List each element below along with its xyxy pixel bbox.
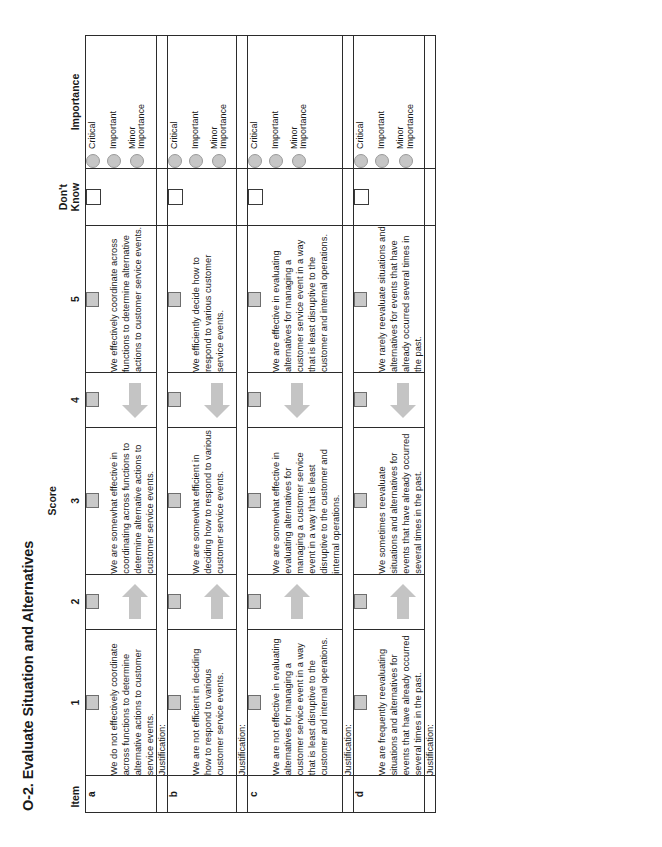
assessment-rows: aWe do not effectively coordinate across…	[85, 36, 436, 813]
importance-option-a-2[interactable]: MinorImportance	[128, 36, 147, 168]
score-checkbox-d-2[interactable]	[354, 594, 367, 609]
cell-score4-c[interactable]	[247, 373, 342, 428]
justification-imp-spacer	[156, 36, 167, 169]
cell-score2-c[interactable]	[247, 574, 342, 629]
radio-dot-icon[interactable]	[248, 154, 262, 168]
cell-importance-d[interactable]: CriticalImportantMinorImportance	[354, 36, 425, 169]
importance-option-label: Important	[377, 111, 386, 149]
radio-dot-icon[interactable]	[189, 154, 203, 168]
cell-score1-a[interactable]: We do not effectively coordinate across …	[85, 629, 156, 776]
cell-score1-c[interactable]: We are not effective in evaluating alter…	[247, 629, 342, 776]
radio-dot-icon[interactable]	[269, 154, 283, 168]
score-checkbox-c-4[interactable]	[248, 393, 261, 408]
score-checkbox-c-1[interactable]	[248, 695, 261, 710]
cell-importance-c[interactable]: CriticalImportantMinorImportance	[247, 36, 342, 169]
justification-field-c[interactable]: Justification:	[343, 226, 354, 776]
justification-item-spacer	[425, 776, 436, 813]
cell-score1-b[interactable]: We are not efficient in deciding how to …	[167, 629, 236, 776]
score-checkbox-b-5[interactable]	[168, 292, 181, 307]
header-score-5: 5	[58, 226, 85, 373]
radio-dot-icon[interactable]	[107, 154, 121, 168]
score-checkbox-c-2[interactable]	[248, 594, 261, 609]
score-checkbox-b-1[interactable]	[168, 695, 181, 710]
cell-score5-c[interactable]: We are effective in evaluating alternati…	[247, 226, 342, 373]
radio-dot-icon[interactable]	[86, 154, 100, 168]
cell-score3-c[interactable]: We are somewhat effective in evaluating …	[247, 428, 342, 575]
radio-dot-icon[interactable]	[168, 154, 182, 168]
importance-option-a-1[interactable]: Important	[107, 36, 121, 168]
score-checkbox-c-5[interactable]	[248, 292, 261, 307]
score-checkbox-a-3[interactable]	[86, 493, 99, 508]
justification-field-b[interactable]: Justification:	[236, 226, 247, 776]
assessment-table: Score Item 1 2 3 4 5 Don't Know Importan…	[46, 35, 436, 813]
score-checkbox-d-3[interactable]	[354, 493, 367, 508]
importance-option-d-0[interactable]: Critical	[354, 36, 368, 168]
justification-field-d[interactable]: Justification:	[425, 226, 436, 776]
score-checkbox-d-5[interactable]	[354, 292, 367, 307]
justification-row: Justification:	[425, 36, 436, 813]
score-checkbox-c-3[interactable]	[248, 493, 261, 508]
trend-arrow-left-b	[188, 373, 230, 427]
justification-field-a[interactable]: Justification:	[156, 226, 167, 776]
cell-score5-d[interactable]: We rarely reevaluate situations and alte…	[354, 226, 425, 373]
justification-label: Justification:	[157, 724, 167, 775]
importance-option-b-1[interactable]: Important	[189, 36, 203, 168]
importance-option-label: Critical	[170, 121, 179, 149]
importance-option-c-2[interactable]: MinorImportance	[290, 36, 309, 168]
dont-know-checkbox-a[interactable]	[86, 189, 101, 205]
table-row: bWe are not efficient in deciding how to…	[167, 36, 236, 813]
radio-dot-icon[interactable]	[354, 154, 368, 168]
cell-dont-know-c[interactable]	[247, 168, 342, 225]
cell-dont-know-b[interactable]	[167, 168, 236, 225]
radio-dot-icon[interactable]	[130, 154, 144, 168]
cell-importance-a[interactable]: CriticalImportantMinorImportance	[85, 36, 156, 169]
score-checkbox-a-5[interactable]	[86, 292, 99, 307]
radio-dot-icon[interactable]	[399, 154, 413, 168]
cell-score4-a[interactable]	[85, 373, 156, 428]
cell-dont-know-a[interactable]	[85, 168, 156, 225]
cell-dont-know-d[interactable]	[354, 168, 425, 225]
justification-label: Justification:	[237, 724, 247, 775]
statement-score1-a: We do not effectively coordinate across …	[108, 630, 156, 776]
importance-option-d-1[interactable]: Important	[375, 36, 389, 168]
score-checkbox-a-1[interactable]	[86, 695, 99, 710]
importance-option-c-0[interactable]: Critical	[248, 36, 262, 168]
cell-score4-d[interactable]	[354, 373, 425, 428]
dont-know-checkbox-d[interactable]	[354, 189, 369, 205]
score-checkbox-a-2[interactable]	[86, 594, 99, 609]
trend-arrow-right-d	[374, 575, 416, 629]
radio-dot-icon[interactable]	[212, 154, 226, 168]
importance-option-label: Important	[191, 111, 200, 149]
score-checkbox-b-3[interactable]	[168, 493, 181, 508]
dont-know-checkbox-b[interactable]	[168, 189, 183, 205]
cell-score1-d[interactable]: We are frequently reevaluating situation…	[354, 629, 425, 776]
importance-option-b-2[interactable]: MinorImportance	[210, 36, 229, 168]
table-row: dWe are frequently reevaluating situatio…	[354, 36, 425, 813]
table-row: cWe are not effective in evaluating alte…	[247, 36, 342, 813]
cell-score3-a[interactable]: We are somewhat effective in coordinatin…	[85, 428, 156, 575]
score-checkbox-d-4[interactable]	[354, 393, 367, 408]
cell-score2-b[interactable]	[167, 574, 236, 629]
score-checkbox-a-4[interactable]	[86, 393, 99, 408]
cell-score2-a[interactable]	[85, 574, 156, 629]
cell-importance-b[interactable]: CriticalImportantMinorImportance	[167, 36, 236, 169]
cell-score3-b[interactable]: We are somewhat efficient in deciding ho…	[167, 428, 236, 575]
importance-option-a-0[interactable]: Critical	[86, 36, 100, 168]
score-checkbox-d-1[interactable]	[354, 695, 367, 710]
radio-dot-icon[interactable]	[292, 154, 306, 168]
importance-option-c-1[interactable]: Important	[269, 36, 283, 168]
score-checkbox-b-4[interactable]	[168, 393, 181, 408]
importance-option-d-2[interactable]: MinorImportance	[396, 36, 415, 168]
cell-score2-d[interactable]	[354, 574, 425, 629]
dont-know-checkbox-c[interactable]	[248, 189, 263, 205]
importance-option-label: Critical	[88, 121, 97, 149]
cell-score5-b[interactable]: We efficiently decide how to respond to …	[167, 226, 236, 373]
header-importance: Importance	[58, 36, 85, 169]
radio-dot-icon[interactable]	[375, 154, 389, 168]
score-checkbox-b-2[interactable]	[168, 594, 181, 609]
cell-score3-d[interactable]: We sometimes reevaluate situations and a…	[354, 428, 425, 575]
cell-score4-b[interactable]	[167, 373, 236, 428]
importance-option-b-0[interactable]: Critical	[168, 36, 182, 168]
cell-score5-a[interactable]: We effectively coordinate across functio…	[85, 226, 156, 373]
statement-score3-a: We are somewhat effective in coordinatin…	[108, 428, 156, 574]
